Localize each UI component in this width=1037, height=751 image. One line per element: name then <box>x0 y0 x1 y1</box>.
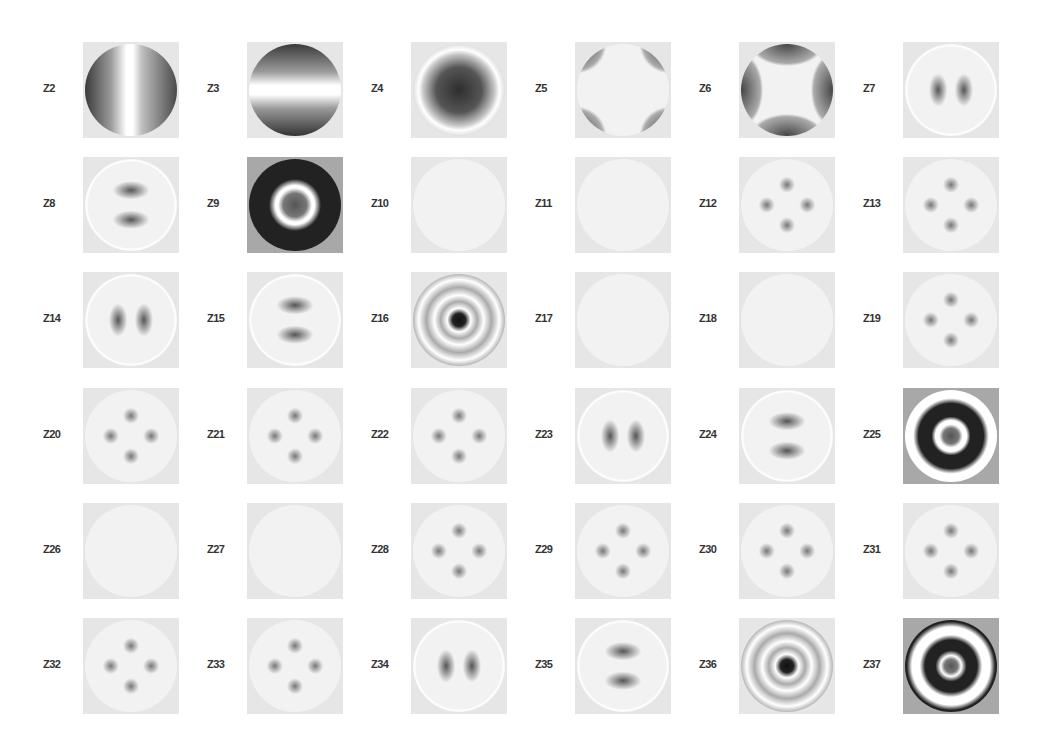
zernike-cell: Z37 <box>863 618 1027 733</box>
term-label: Z13 <box>863 197 899 209</box>
pattern-disc <box>905 505 997 597</box>
term-label: Z4 <box>371 82 407 94</box>
zernike-cell: Z30 <box>699 503 863 618</box>
pattern-disc <box>577 390 669 482</box>
pattern-disc <box>413 620 505 712</box>
term-label: Z21 <box>207 428 243 440</box>
term-label: Z26 <box>43 543 79 555</box>
zernike-cell: Z5 <box>535 42 699 157</box>
term-label: Z2 <box>43 82 79 94</box>
term-label: Z32 <box>43 658 79 670</box>
term-label: Z33 <box>207 658 243 670</box>
zernike-cell: Z21 <box>207 388 371 503</box>
zernike-pattern-image <box>411 388 507 484</box>
pattern-disc <box>85 274 177 366</box>
pattern-disc <box>413 505 505 597</box>
zernike-pattern-image <box>739 42 835 138</box>
zernike-cell: Z22 <box>371 388 535 503</box>
zernike-cell: Z33 <box>207 618 371 733</box>
zernike-pattern-image <box>247 272 343 368</box>
pattern-disc <box>741 390 833 482</box>
term-label: Z24 <box>699 428 735 440</box>
pattern-disc <box>577 620 669 712</box>
zernike-pattern-image <box>903 388 999 484</box>
pattern-disc <box>577 505 669 597</box>
zernike-cell: Z15 <box>207 272 371 387</box>
pattern-disc <box>905 390 997 482</box>
zernike-cell: Z6 <box>699 42 863 157</box>
pattern-disc <box>741 274 833 366</box>
zernike-cell: Z7 <box>863 42 1027 157</box>
zernike-pattern-image <box>575 157 671 253</box>
zernike-cell: Z4 <box>371 42 535 157</box>
zernike-cell: Z32 <box>43 618 207 733</box>
zernike-cell: Z3 <box>207 42 371 157</box>
zernike-pattern-image <box>247 503 343 599</box>
zernike-pattern-image <box>903 503 999 599</box>
term-label: Z25 <box>863 428 899 440</box>
zernike-pattern-image <box>411 503 507 599</box>
zernike-pattern-image <box>575 618 671 714</box>
zernike-cell: Z36 <box>699 618 863 733</box>
term-label: Z8 <box>43 197 79 209</box>
zernike-cell: Z34 <box>371 618 535 733</box>
pattern-disc <box>741 44 833 136</box>
zernike-cell: Z25 <box>863 388 1027 503</box>
pattern-disc <box>741 620 833 712</box>
term-label: Z31 <box>863 543 899 555</box>
zernike-pattern-image <box>247 618 343 714</box>
term-label: Z3 <box>207 82 243 94</box>
zernike-pattern-image <box>411 42 507 138</box>
zernike-pattern-image <box>903 42 999 138</box>
zernike-cell: Z31 <box>863 503 1027 618</box>
term-label: Z12 <box>699 197 735 209</box>
pattern-disc <box>249 44 341 136</box>
zernike-cell: Z11 <box>535 157 699 272</box>
pattern-disc <box>905 159 997 251</box>
zernike-cell: Z18 <box>699 272 863 387</box>
zernike-cell: Z19 <box>863 272 1027 387</box>
term-label: Z22 <box>371 428 407 440</box>
pattern-disc <box>249 620 341 712</box>
pattern-disc <box>413 274 505 366</box>
term-label: Z16 <box>371 312 407 324</box>
term-label: Z7 <box>863 82 899 94</box>
term-label: Z10 <box>371 197 407 209</box>
zernike-pattern-image <box>411 272 507 368</box>
term-label: Z30 <box>699 543 735 555</box>
zernike-pattern-image <box>575 503 671 599</box>
term-label: Z28 <box>371 543 407 555</box>
term-label: Z11 <box>535 197 571 209</box>
pattern-disc <box>741 159 833 251</box>
zernike-pattern-image <box>83 388 179 484</box>
zernike-pattern-image <box>739 388 835 484</box>
zernike-pattern-image <box>575 272 671 368</box>
zernike-pattern-image <box>83 272 179 368</box>
term-label: Z37 <box>863 658 899 670</box>
zernike-pattern-image <box>739 618 835 714</box>
pattern-disc <box>85 44 177 136</box>
zernike-pattern-image <box>247 157 343 253</box>
zernike-pattern-image <box>903 618 999 714</box>
term-label: Z6 <box>699 82 735 94</box>
pattern-disc <box>85 159 177 251</box>
term-label: Z36 <box>699 658 735 670</box>
zernike-pattern-image <box>83 618 179 714</box>
pattern-disc <box>741 505 833 597</box>
pattern-disc <box>413 390 505 482</box>
term-label: Z27 <box>207 543 243 555</box>
pattern-disc <box>577 44 669 136</box>
zernike-cell: Z2 <box>43 42 207 157</box>
zernike-cell: Z24 <box>699 388 863 503</box>
zernike-cell: Z20 <box>43 388 207 503</box>
pattern-disc <box>413 44 505 136</box>
term-label: Z35 <box>535 658 571 670</box>
pattern-disc <box>905 44 997 136</box>
zernike-pattern-image <box>247 42 343 138</box>
zernike-pattern-image <box>411 618 507 714</box>
pattern-disc <box>85 390 177 482</box>
term-label: Z19 <box>863 312 899 324</box>
zernike-pattern-image <box>739 503 835 599</box>
zernike-pattern-image <box>83 157 179 253</box>
zernike-cell: Z35 <box>535 618 699 733</box>
